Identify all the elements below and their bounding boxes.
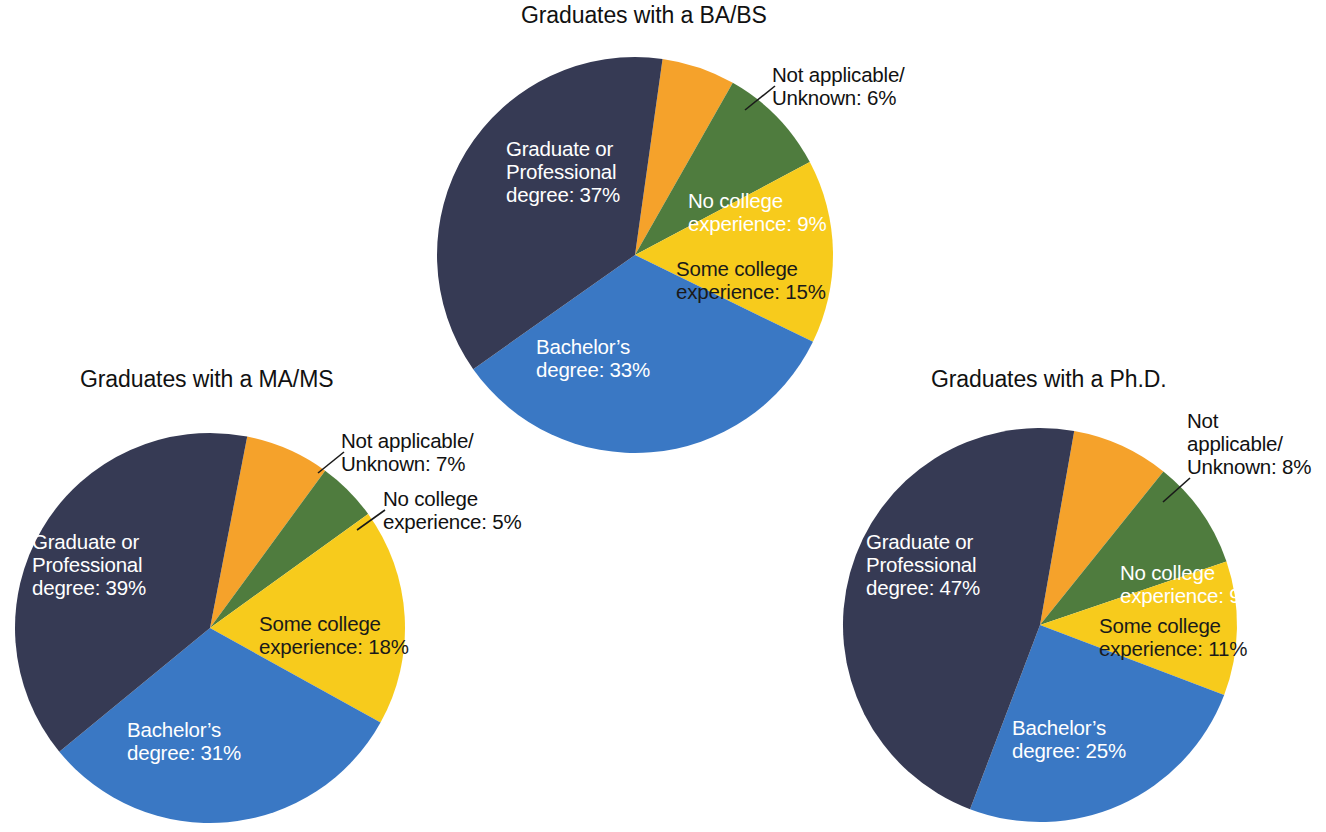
label-line: Graduate or xyxy=(866,531,980,554)
label-line: applicable/ xyxy=(1187,433,1311,456)
label-graduate-professional: Graduate or Professional degree: 47% xyxy=(866,531,980,600)
label-line: Professional xyxy=(866,554,980,577)
label-line: degree: 47% xyxy=(866,577,980,600)
label-some-college: Some college experience: 11% xyxy=(1099,615,1247,661)
label-line: Bachelor’s xyxy=(1012,717,1126,740)
label-line: Not xyxy=(1187,410,1311,433)
label-line: experience: 11% xyxy=(1099,638,1247,661)
label-line: experience: 9% xyxy=(1120,585,1259,608)
label-line: Unknown: 8% xyxy=(1187,456,1311,479)
pie-chart-phd: Graduates with a Ph.D. Graduate or Profe… xyxy=(0,0,1326,832)
pie-svg-phd xyxy=(0,0,1326,832)
label-line: Some college xyxy=(1099,615,1247,638)
label-line: No college xyxy=(1120,562,1259,585)
label-not-applicable: Not applicable/ Unknown: 8% xyxy=(1187,410,1311,479)
label-bachelors: Bachelor’s degree: 25% xyxy=(1012,717,1126,763)
label-no-college: No college experience: 9% xyxy=(1120,562,1259,608)
label-line: degree: 25% xyxy=(1012,740,1126,763)
